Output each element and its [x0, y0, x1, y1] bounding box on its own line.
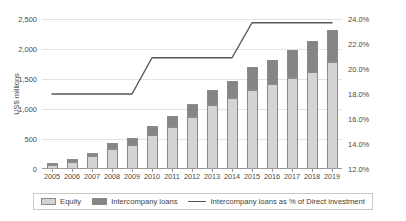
- y-axis-left-tick-label: 2,000: [5, 45, 37, 54]
- bar-segment-equity[interactable]: [107, 149, 118, 169]
- bar-group[interactable]: [47, 19, 58, 169]
- bar-group[interactable]: [107, 19, 118, 169]
- equity-swatch-icon: [41, 198, 56, 205]
- bar-segment-equity[interactable]: [227, 98, 238, 169]
- y-axis-left-tick-label: 0: [5, 165, 37, 174]
- bar-segment-equity[interactable]: [147, 135, 158, 169]
- bar-group[interactable]: [327, 19, 338, 169]
- bar-segment-equity[interactable]: [267, 84, 278, 169]
- bar-segment-intercompany-loans[interactable]: [267, 60, 278, 84]
- y-axis-left-tick-label: 500: [5, 135, 37, 144]
- bar-series-layer: [42, 19, 342, 169]
- bar-segment-intercompany-loans[interactable]: [187, 104, 198, 117]
- bar-group[interactable]: [247, 19, 258, 169]
- chart-container: US$ millions 05001,0001,5002,0002,500 12…: [0, 0, 406, 221]
- bar-segment-equity[interactable]: [287, 78, 298, 169]
- y-axis-right-tick-label: 18.0%: [348, 90, 382, 99]
- bar-segment-intercompany-loans[interactable]: [287, 50, 298, 78]
- y-axis-right-tick-label: 24.0%: [348, 15, 382, 24]
- bar-segment-intercompany-loans[interactable]: [247, 67, 258, 90]
- bar-segment-intercompany-loans[interactable]: [87, 153, 98, 157]
- x-axis-tick-label: 2019: [319, 172, 345, 181]
- bar-group[interactable]: [167, 19, 178, 169]
- bar-group[interactable]: [147, 19, 158, 169]
- bar-group[interactable]: [227, 19, 238, 169]
- chart-legend: Equity Intercompany loans Intercompany l…: [33, 193, 373, 210]
- bar-segment-equity[interactable]: [247, 90, 258, 169]
- y-axis-title-wrap: US$ millions: [0, 19, 14, 169]
- bar-segment-equity[interactable]: [307, 72, 318, 169]
- bar-segment-intercompany-loans[interactable]: [307, 41, 318, 72]
- bar-segment-intercompany-loans[interactable]: [147, 126, 158, 135]
- bar-segment-intercompany-loans[interactable]: [227, 81, 238, 98]
- bar-segment-intercompany-loans[interactable]: [127, 138, 138, 145]
- bar-segment-intercompany-loans[interactable]: [207, 90, 218, 105]
- bar-segment-intercompany-loans[interactable]: [167, 116, 178, 127]
- bar-segment-equity[interactable]: [127, 145, 138, 169]
- y-axis-right-tick-label: 16.0%: [348, 115, 382, 124]
- bar-group[interactable]: [127, 19, 138, 169]
- bar-group[interactable]: [267, 19, 278, 169]
- bar-segment-equity[interactable]: [207, 105, 218, 169]
- line-swatch-icon: [188, 201, 206, 202]
- bar-segment-equity[interactable]: [167, 127, 178, 169]
- y-axis-right-tick-label: 22.0%: [348, 40, 382, 49]
- y-axis-left-tick-label: 2,500: [5, 15, 37, 24]
- y-axis-right-tick-label: 12.0%: [348, 165, 382, 174]
- bar-segment-intercompany-loans[interactable]: [327, 30, 338, 62]
- bar-group[interactable]: [87, 19, 98, 169]
- bar-segment-equity[interactable]: [187, 117, 198, 169]
- bar-group[interactable]: [67, 19, 78, 169]
- legend-label-loans-percent: Intercompany loans as % of Direct invest…: [210, 198, 364, 206]
- legend-label-intercompany-loans: Intercompany loans: [111, 198, 177, 206]
- bar-segment-intercompany-loans[interactable]: [47, 163, 58, 165]
- bar-segment-equity[interactable]: [327, 62, 338, 169]
- bar-group[interactable]: [187, 19, 198, 169]
- bar-segment-intercompany-loans[interactable]: [67, 159, 78, 161]
- legend-label-equity: Equity: [60, 198, 81, 206]
- plot-area: 2005200620072008200920102011201220132014…: [42, 19, 342, 169]
- bar-group[interactable]: [287, 19, 298, 169]
- y-axis-left-tick-label: 1,000: [5, 105, 37, 114]
- y-axis-left-tick-label: 1,500: [5, 75, 37, 84]
- bar-group[interactable]: [307, 19, 318, 169]
- y-axis-right-tick-label: 20.0%: [348, 65, 382, 74]
- loans-swatch-icon: [92, 198, 107, 205]
- bar-segment-intercompany-loans[interactable]: [107, 143, 118, 149]
- legend-item-intercompany-loans[interactable]: Intercompany loans: [92, 198, 177, 206]
- bar-group[interactable]: [207, 19, 218, 169]
- y-axis-right-tick-label: 14.0%: [348, 140, 382, 149]
- legend-item-loans-percent[interactable]: Intercompany loans as % of Direct invest…: [188, 198, 364, 206]
- legend-item-equity[interactable]: Equity: [41, 198, 81, 206]
